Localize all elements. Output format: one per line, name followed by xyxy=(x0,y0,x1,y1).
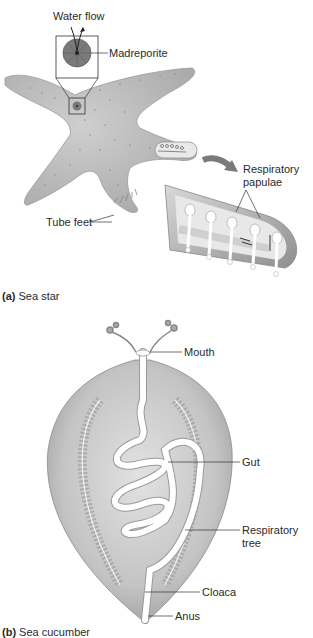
label-water-flow: Water flow xyxy=(53,10,105,22)
label-madreporite: Madreporite xyxy=(109,47,168,59)
papulae-detail-box xyxy=(155,142,197,158)
label-anus: Anus xyxy=(175,610,200,622)
caption-panel-a: (a) Sea star xyxy=(2,290,59,302)
papulae-cross-section xyxy=(165,185,297,277)
label-respiratory-tree-line1: Respiratory xyxy=(242,524,298,536)
label-gut: Gut xyxy=(242,456,260,468)
label-respiratory-papulae-line1: Respiratory xyxy=(243,163,299,175)
caption-text-a: Sea star xyxy=(19,290,60,302)
label-cloaca: Cloaca xyxy=(202,586,236,598)
caption-letter-b: (b) xyxy=(2,626,16,638)
caption-panel-b: (b) Sea cucumber xyxy=(2,626,90,638)
caption-letter-a: (a) xyxy=(2,290,15,302)
caption-text-b: Sea cucumber xyxy=(19,626,90,638)
label-respiratory-papulae-line2: papulae xyxy=(243,176,282,188)
label-respiratory-tree-line2: tree xyxy=(242,537,261,549)
label-tube-feet: Tube feet xyxy=(46,216,92,228)
label-mouth: Mouth xyxy=(184,346,215,358)
tentacles xyxy=(107,321,177,353)
